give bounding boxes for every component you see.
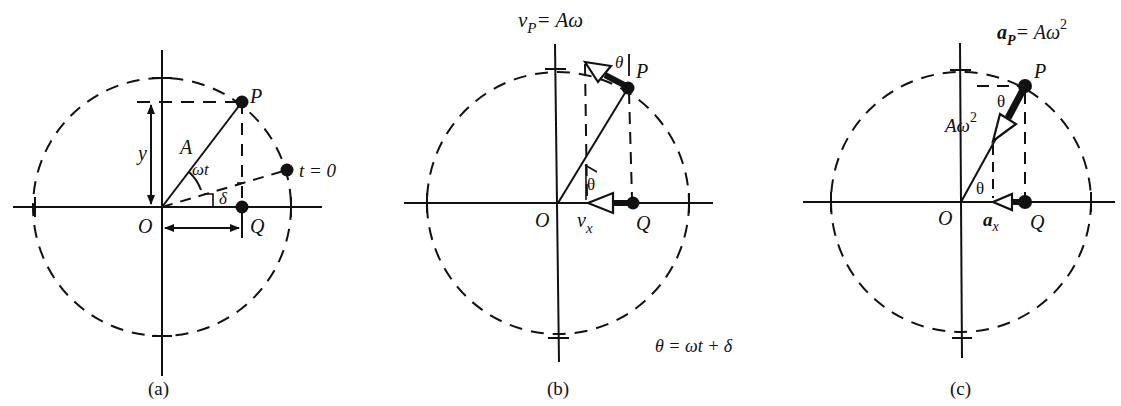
point-P	[236, 96, 249, 109]
label-O: O	[938, 207, 952, 229]
caption-c: (c)	[950, 378, 971, 400]
label-theta-mid: θ	[587, 175, 595, 194]
label-Q: Q	[636, 212, 651, 234]
label-ax: ax	[983, 209, 1000, 234]
label-theta-mid: θ	[976, 179, 984, 198]
point-Q	[1018, 195, 1032, 209]
label-theta-top: θ	[615, 53, 623, 72]
panel-a: P A ωt δ y t = 0 O Q (a)	[13, 50, 337, 400]
reference-circle-figure: P A ωt δ y t = 0 O Q (a)	[0, 0, 1121, 406]
label-vx: vx	[577, 209, 593, 236]
panel-b: vP= Aω P θ θ O vx Q θ = ωt + δ (b)	[404, 8, 733, 400]
label-delta: δ	[219, 189, 228, 208]
velocity-title: vP= Aω	[518, 8, 583, 36]
label-P: P	[1033, 60, 1046, 82]
label-Q: Q	[250, 215, 265, 237]
acceleration-vector-head	[993, 114, 1016, 141]
point-t0	[281, 164, 294, 177]
point-P	[622, 82, 635, 95]
label-t-equals-0: t = 0	[299, 160, 337, 181]
caption-a: (a)	[148, 378, 169, 400]
projection-vertical	[629, 92, 632, 198]
label-O: O	[535, 209, 549, 231]
angle-arc-delta	[204, 194, 213, 207]
vx-vector-head	[588, 193, 613, 213]
label-omega-t: ωt	[192, 160, 210, 179]
point-P	[1018, 79, 1032, 93]
acceleration-title: aP= Aω2	[997, 17, 1067, 48]
caption-b: (b)	[547, 378, 569, 400]
point-Q	[236, 201, 249, 214]
label-P: P	[249, 85, 262, 107]
label-theta-top: θ	[997, 92, 1005, 111]
point-Q	[627, 197, 640, 210]
label-P: P	[635, 60, 648, 82]
label-A: A	[178, 136, 193, 158]
label-O: O	[138, 215, 152, 237]
theta-definition: θ = ωt + δ	[655, 336, 733, 356]
ax-vector-head	[993, 194, 1012, 210]
label-Q: Q	[1030, 211, 1045, 233]
panel-c: aP= Aω2 P θ Aω2 θ O ax Q (c)	[803, 17, 1115, 400]
acceleration-vector-shaft	[1008, 88, 1024, 118]
radius-line	[162, 102, 242, 207]
label-y: y	[136, 142, 147, 165]
